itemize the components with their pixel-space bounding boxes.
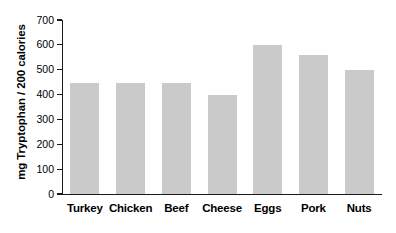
- bar: [116, 83, 145, 194]
- y-axis-tick: [57, 94, 62, 95]
- bar-chart: mg Tryptophan / 200 calories 70060050040…: [0, 0, 396, 233]
- x-axis-category-label: Eggs: [245, 202, 291, 214]
- x-axis-category-label: Cheese: [199, 202, 245, 214]
- x-axis-category-label: Nuts: [336, 202, 382, 214]
- y-axis-line: [62, 20, 63, 194]
- y-axis-tick: [57, 144, 62, 145]
- y-axis-tick: [57, 19, 62, 20]
- y-axis-tick: [57, 69, 62, 70]
- bar: [208, 95, 237, 194]
- bar: [299, 55, 328, 194]
- plot-area: 7006005004003002001000 TurkeyChickenBeef…: [62, 20, 382, 194]
- y-axis-tick-label: 500: [20, 64, 54, 74]
- y-axis-tick-label: 400: [20, 89, 54, 99]
- x-axis-category-label: Turkey: [62, 202, 108, 214]
- x-axis-category-label: Pork: [291, 202, 337, 214]
- y-axis-tick: [57, 193, 62, 194]
- y-axis-tick-label: 200: [20, 139, 54, 149]
- bar: [345, 70, 374, 194]
- bar: [70, 83, 99, 194]
- bar: [253, 45, 282, 194]
- y-axis-tick-label: 600: [20, 39, 54, 49]
- x-axis-category-label: Beef: [153, 202, 199, 214]
- y-axis-tick-label: 100: [20, 164, 54, 174]
- y-axis-tick: [57, 119, 62, 120]
- y-axis-tick-label: 0: [20, 189, 54, 199]
- x-axis-line: [62, 194, 382, 195]
- x-axis-category-label: Chicken: [108, 202, 154, 214]
- y-axis-tick-label: 700: [20, 15, 54, 25]
- bar: [162, 83, 191, 194]
- y-axis-tick: [57, 169, 62, 170]
- y-axis-tick: [57, 44, 62, 45]
- y-axis-tick-label: 300: [20, 114, 54, 124]
